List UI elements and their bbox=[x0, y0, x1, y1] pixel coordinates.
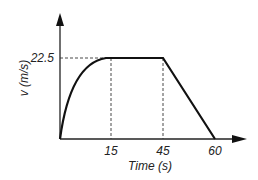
y-tick-22-5: 22.5 bbox=[30, 51, 55, 65]
x-tick-60: 60 bbox=[208, 144, 222, 158]
x-axis-arrow-icon bbox=[232, 135, 247, 143]
x-axis-label: Time (s) bbox=[128, 159, 172, 173]
velocity-curve bbox=[60, 58, 215, 139]
x-tick-15: 15 bbox=[104, 144, 118, 158]
y-axis-arrow-icon bbox=[56, 13, 64, 26]
velocity-time-graph: 22.5 15 45 60 Time (s) v (m/s) bbox=[0, 0, 258, 180]
x-tick-45: 45 bbox=[156, 144, 170, 158]
y-axis-label: v (m/s) bbox=[17, 60, 31, 97]
chart-canvas: 22.5 15 45 60 Time (s) v (m/s) bbox=[0, 0, 258, 180]
